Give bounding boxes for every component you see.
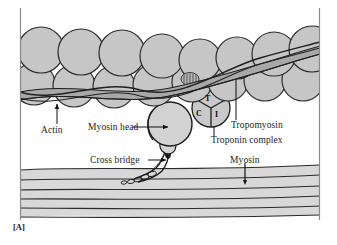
- figure-panel-a: Actin Myosin head Tropomyosin Troponin c…: [0, 0, 337, 245]
- label-troponin-complex: Troponin complex: [211, 135, 283, 145]
- label-myosin-head: Myosin head: [88, 122, 138, 132]
- label-myosin: Myosin: [230, 155, 260, 165]
- label-actin: Actin: [41, 125, 63, 135]
- panel-letter: [A]: [13, 222, 25, 232]
- label-tropomyosin: Tropomyosin: [231, 120, 283, 130]
- troponin-sector-c: C: [196, 109, 202, 118]
- myosin-filament: [20, 165, 320, 218]
- muscle-filament-diagram: [0, 0, 337, 245]
- troponin-sector-t: T: [205, 94, 210, 103]
- label-cross-bridge: Cross bridge: [90, 155, 140, 165]
- troponin-sector-i: I: [215, 110, 218, 119]
